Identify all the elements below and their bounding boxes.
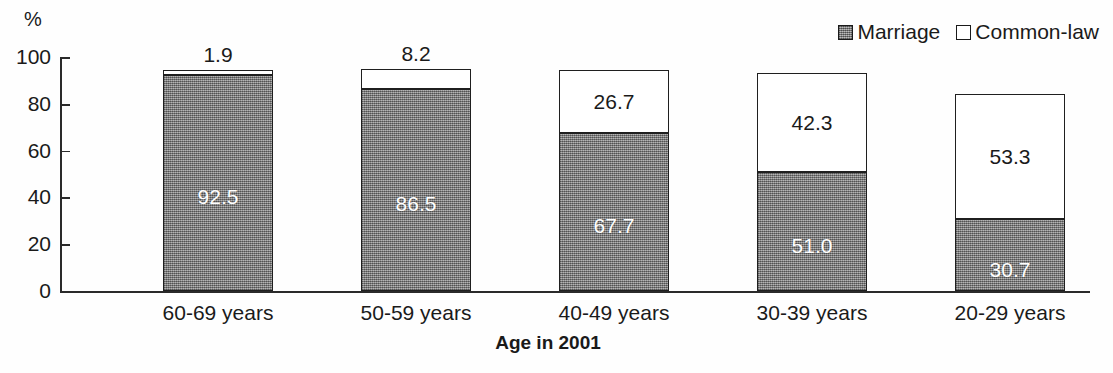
y-tick-label-20: 20 <box>28 232 51 256</box>
bar-group[interactable]: 86.58.2 <box>361 69 471 291</box>
legend-swatch-common-law-icon <box>956 25 971 40</box>
bar-segment-marriage[interactable]: 92.5 <box>163 75 273 291</box>
bar-segment-common-law[interactable]: 42.3 <box>757 73 867 172</box>
bar-segment-common-law[interactable]: 1.9 <box>163 70 273 74</box>
y-axis-unit-label: % <box>24 8 42 31</box>
bar-segment-marriage[interactable]: 86.5 <box>361 89 471 291</box>
legend-swatch-marriage-icon <box>838 25 853 40</box>
y-tick-label-40: 40 <box>28 185 51 209</box>
bar-segment-common-law[interactable]: 53.3 <box>955 94 1065 219</box>
bar-value-label-marriage: 86.5 <box>396 193 437 214</box>
x-axis-title: Age in 2001 <box>495 332 601 354</box>
bar-value-label-marriage: 92.5 <box>198 186 239 207</box>
chart-legend: Marriage Common-law <box>838 20 1099 44</box>
x-axis-label-4: 30-39 years <box>757 301 868 325</box>
y-tick-label-60: 60 <box>28 139 51 163</box>
y-tick-mark-40 <box>62 197 70 199</box>
legend-label-common-law: Common-law <box>975 20 1099 44</box>
bar-value-label-common-law: 42.3 <box>792 112 833 133</box>
bar-value-label-common-law: 8.2 <box>401 43 430 64</box>
y-axis-line <box>60 57 62 291</box>
bar-value-label-marriage: 67.7 <box>594 215 635 236</box>
y-tick-mark-0 <box>62 291 70 293</box>
y-tick-mark-60 <box>62 151 70 153</box>
bar-segment-marriage[interactable]: 51.0 <box>757 172 867 291</box>
bar-segment-marriage[interactable]: 67.7 <box>559 133 669 291</box>
x-axis-label-1: 60-69 years <box>163 301 274 325</box>
bar-segment-marriage[interactable]: 30.7 <box>955 219 1065 291</box>
x-axis-label-2: 50-59 years <box>361 301 472 325</box>
y-tick-mark-80 <box>62 104 70 106</box>
plot-area: 100806040200 92.51.986.58.267.726.751.04… <box>60 57 1090 291</box>
bar-segment-common-law[interactable]: 8.2 <box>361 69 471 88</box>
bar-group[interactable]: 30.753.3 <box>955 94 1065 291</box>
y-tick-mark-20 <box>62 244 70 246</box>
y-tick-label-0: 0 <box>39 279 51 303</box>
stacked-bar-chart: % Marriage Common-law 100806040200 92.51… <box>0 0 1113 373</box>
x-axis-label-5: 20-29 years <box>955 301 1066 325</box>
legend-item-common-law[interactable]: Common-law <box>956 20 1099 44</box>
bar-value-label-marriage: 30.7 <box>990 259 1031 280</box>
bar-group[interactable]: 67.726.7 <box>559 70 669 291</box>
y-tick-mark-100 <box>62 57 70 59</box>
x-axis-label-3: 40-49 years <box>559 301 670 325</box>
legend-item-marriage[interactable]: Marriage <box>838 20 940 44</box>
bar-group[interactable]: 51.042.3 <box>757 73 867 291</box>
y-tick-label-80: 80 <box>28 92 51 116</box>
legend-label-marriage: Marriage <box>857 20 940 44</box>
bar-value-label-common-law: 53.3 <box>990 146 1031 167</box>
bar-value-label-common-law: 26.7 <box>594 91 635 112</box>
bar-value-label-common-law: 1.9 <box>203 44 232 65</box>
bar-value-label-marriage: 51.0 <box>792 235 833 256</box>
bar-group[interactable]: 92.51.9 <box>163 70 273 291</box>
y-tick-label-100: 100 <box>16 45 51 69</box>
bar-segment-common-law[interactable]: 26.7 <box>559 70 669 132</box>
